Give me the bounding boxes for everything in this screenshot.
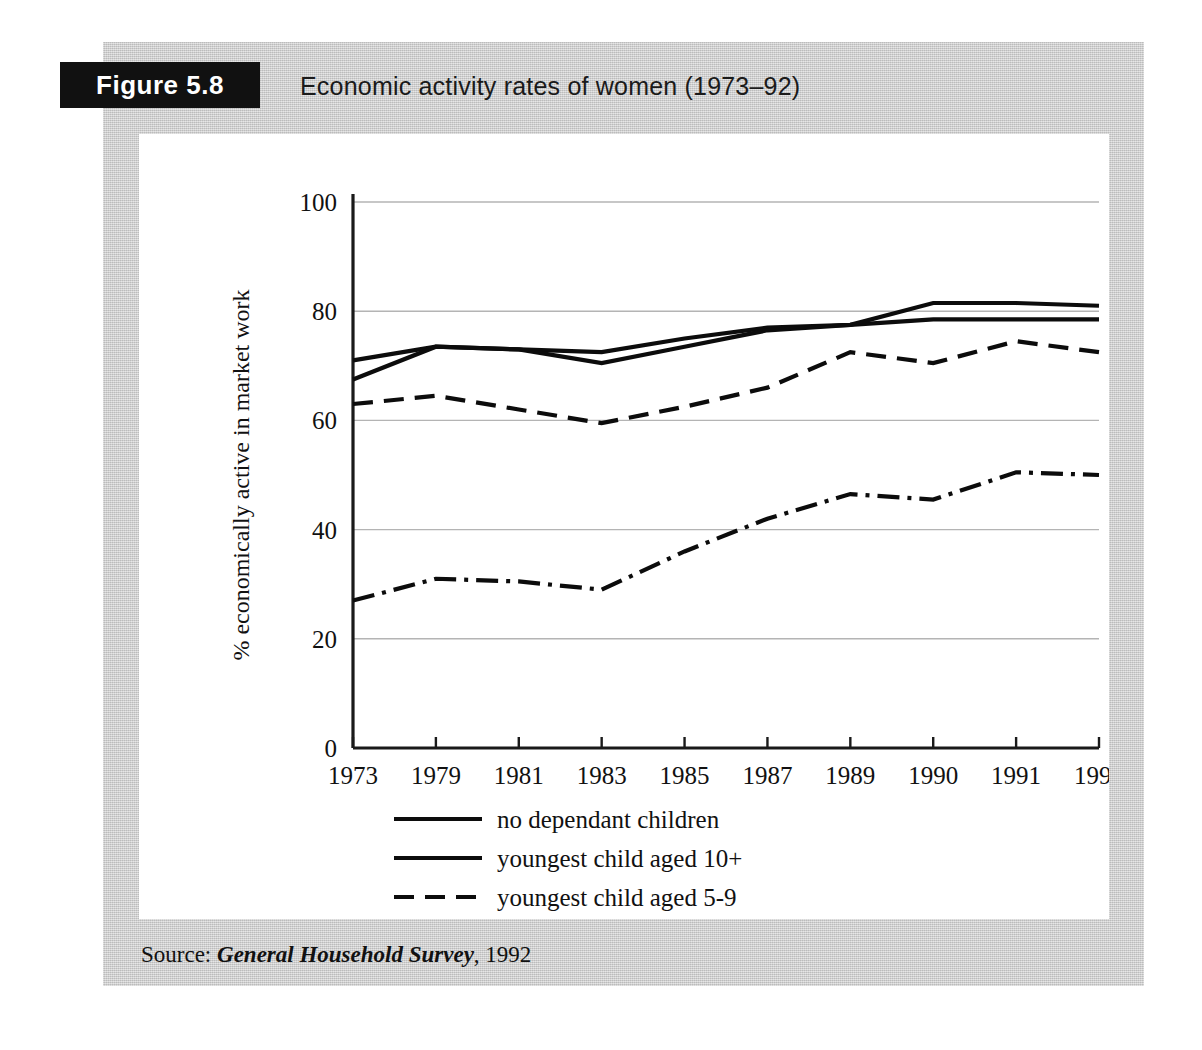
source-title: General Household Survey: [217, 942, 474, 967]
x-tick-label: 1990: [908, 762, 958, 789]
x-tick-label: 1991: [991, 762, 1041, 789]
y-tick-label: 40: [312, 517, 337, 544]
x-tick-label: 1987: [742, 762, 792, 789]
x-tick-label: 1983: [577, 762, 627, 789]
series-line: [353, 303, 1099, 379]
y-axis-ticks: 020406080100: [300, 189, 338, 762]
legend-label: no dependant children: [497, 806, 720, 833]
y-axis-title: % economically active in market work: [228, 289, 254, 660]
chart-canvas: 020406080100 197319791981198319851987198…: [139, 134, 1109, 919]
legend-label: youngest child aged 10+: [497, 845, 742, 872]
gridlines: [353, 202, 1099, 639]
x-tick-label: 1981: [494, 762, 544, 789]
y-tick-label: 0: [325, 735, 338, 762]
source-year: , 1992: [474, 942, 532, 967]
x-tick-label: 1973: [328, 762, 378, 789]
series-lines: [353, 303, 1099, 601]
source-label: Source:: [141, 942, 211, 967]
x-tick-label: 1992: [1074, 762, 1109, 789]
chart-legend: no dependant childrenyoungest child aged…: [394, 806, 742, 919]
y-tick-label: 60: [312, 407, 337, 434]
y-axis-title-text: % economically active in market work: [228, 289, 254, 660]
x-tick-label: 1985: [660, 762, 710, 789]
series-line: [353, 341, 1099, 423]
x-tick-label: 1989: [825, 762, 875, 789]
axes: [353, 194, 1099, 748]
x-axis-ticks: 1973197919811983198519871989199019911992: [328, 737, 1109, 789]
line-chart: 020406080100 197319791981198319851987198…: [139, 134, 1109, 919]
figure-number-tag: Figure 5.8: [60, 62, 260, 108]
figure-plate: Figure 5.8 Economic activity rates of wo…: [103, 42, 1144, 986]
series-line: [353, 472, 1099, 600]
source-note: Source: General Household Survey, 1992: [141, 942, 531, 968]
figure-title: Economic activity rates of women (1973–9…: [300, 64, 800, 108]
y-tick-label: 80: [312, 298, 337, 325]
y-tick-label: 100: [300, 189, 338, 216]
legend-label: youngest child aged 5-9: [497, 884, 737, 911]
x-tick-label: 1979: [411, 762, 461, 789]
y-tick-label: 20: [312, 626, 337, 653]
